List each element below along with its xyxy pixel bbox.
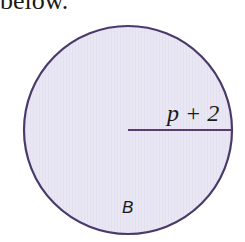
radius-label: p + 2 bbox=[165, 100, 219, 126]
circle-label: B bbox=[122, 198, 133, 217]
circle-diagram: p + 2 B bbox=[0, 0, 245, 242]
